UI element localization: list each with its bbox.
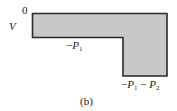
level-label-p1: −P1 bbox=[66, 40, 82, 55]
zero-label: 0 bbox=[22, 5, 28, 16]
figure-caption: (b) bbox=[80, 96, 93, 107]
level-label-p1-p2: −P1 − P2 bbox=[121, 79, 159, 94]
axis-label-v: V bbox=[9, 21, 16, 32]
